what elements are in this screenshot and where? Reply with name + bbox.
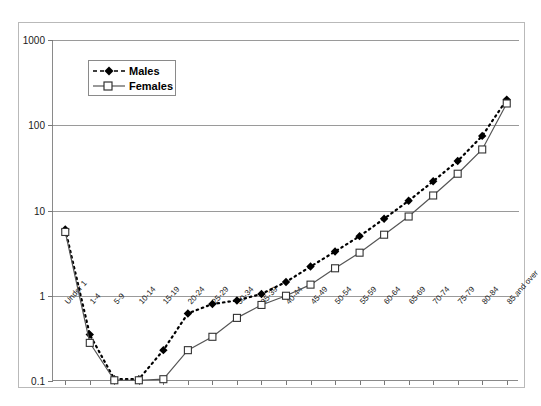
data-point-females [381,231,388,238]
data-point-females [405,213,412,220]
data-point-females [454,170,461,177]
x-tick-mark [212,381,213,385]
y-axis-label: 1000 [23,35,45,46]
x-tick-mark [311,381,312,385]
x-tick-mark [65,381,66,385]
x-tick-mark [482,381,483,385]
legend-item-females: Females [92,78,172,93]
data-point-females [258,301,265,308]
data-point-males [184,309,192,317]
y-axis-label: 1 [39,290,45,301]
x-tick-mark [335,381,336,385]
data-point-females [283,292,290,299]
legend-label-females: Females [129,80,173,92]
females-line-sample [92,79,126,93]
x-tick-mark [507,381,508,385]
data-point-females [503,100,510,107]
x-tick-mark [409,381,410,385]
y-axis-label: 0.1 [31,376,45,387]
data-point-females [62,228,69,235]
x-tick-mark [286,381,287,385]
y-axis-label: 100 [28,120,45,131]
legend-label-males: Males [129,65,160,77]
data-point-males [282,278,290,286]
data-point-females [430,192,437,199]
x-tick-mark [261,381,262,385]
data-point-females [111,377,118,384]
series-line-females [65,103,506,380]
y-tick-mark [48,381,53,382]
x-tick-mark [433,381,434,385]
series-line-males [65,100,506,380]
x-tick-mark [188,381,189,385]
y-axis-label: 10 [34,205,45,216]
data-point-females [209,333,216,340]
data-point-females [479,146,486,153]
x-tick-mark [90,381,91,385]
data-point-females [160,376,167,383]
x-tick-mark [384,381,385,385]
legend-item-males: Males [92,63,172,78]
data-point-males [257,290,265,298]
data-point-females [184,347,191,354]
x-tick-mark [237,381,238,385]
data-point-females [135,377,142,384]
data-point-females [233,314,240,321]
data-point-males [208,300,216,308]
males-line-sample [92,64,126,78]
data-point-males [233,296,241,304]
data-point-females [332,265,339,272]
x-tick-mark [458,381,459,385]
data-point-females [356,249,363,256]
chart-legend: Males Females [88,60,176,96]
x-tick-mark [360,381,361,385]
data-point-females [307,281,314,288]
log-line-chart: 10001001010.1 Under 11-45-910-1415-1920-… [0,0,541,406]
data-point-females [86,339,93,346]
